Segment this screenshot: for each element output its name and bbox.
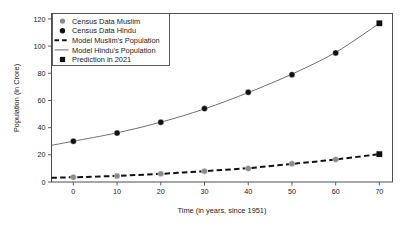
x-axis-title: Time (in years, since 1951) xyxy=(178,206,267,215)
census-muslim-point xyxy=(289,161,295,167)
census-hindu-point xyxy=(333,50,339,56)
y-tick-label: 120 xyxy=(34,15,46,24)
census-hindu-point xyxy=(70,138,76,144)
prediction-2021-marker xyxy=(376,151,382,157)
prediction-2021-marker xyxy=(376,20,382,26)
legend-item-label: Model Muslim's Population xyxy=(72,36,160,45)
census-hindu-point xyxy=(289,72,295,78)
circle-black-icon xyxy=(60,28,65,33)
census-hindu-point xyxy=(158,119,164,125)
census-hindu-point xyxy=(114,130,120,136)
census-muslim-point xyxy=(245,165,251,171)
x-tick-label: 70 xyxy=(375,187,383,196)
legend-item-label: Census Data Muslim xyxy=(72,17,140,26)
census-muslim-point xyxy=(70,174,76,180)
x-tick-label: 0 xyxy=(71,187,75,196)
x-tick-label: 50 xyxy=(288,187,296,196)
x-tick-label: 60 xyxy=(332,187,340,196)
square-black-icon xyxy=(60,57,65,62)
legend-item: Census Data Hindu xyxy=(60,26,136,35)
chart-canvas: 020406080100120 010203040506070 Time (in… xyxy=(0,0,417,229)
x-tick-label: 40 xyxy=(244,187,252,196)
census-muslim-point xyxy=(333,157,339,163)
legend-item: Census Data Muslim xyxy=(60,17,140,26)
census-muslim-point xyxy=(202,168,208,174)
y-tick-label: 60 xyxy=(38,96,46,105)
legend-item-label: Census Data Hindu xyxy=(72,26,136,35)
y-axis-title: Population (in Crore) xyxy=(12,64,21,132)
legend-item-label: Prediction in 2021 xyxy=(72,55,131,64)
y-tick-label: 20 xyxy=(38,150,46,159)
census-muslim-point xyxy=(114,173,120,179)
chart-legend: Census Data MuslimCensus Data HinduModel… xyxy=(53,14,170,66)
census-muslim-point xyxy=(158,171,164,177)
x-tick-label: 30 xyxy=(201,187,209,196)
census-hindu-point xyxy=(245,89,251,95)
x-tick-label: 10 xyxy=(113,187,121,196)
legend-item-label: Model Hindu's Population xyxy=(72,46,156,55)
x-tick-label: 20 xyxy=(157,187,165,196)
y-tick-label: 80 xyxy=(38,69,46,78)
y-tick-label: 100 xyxy=(34,42,46,51)
y-tick-label: 40 xyxy=(38,123,46,132)
circle-gray-icon xyxy=(60,18,65,23)
chart-figure: 020406080100120 010203040506070 Time (in… xyxy=(0,0,417,229)
census-hindu-point xyxy=(202,106,208,112)
y-tick-label: 0 xyxy=(42,178,46,187)
